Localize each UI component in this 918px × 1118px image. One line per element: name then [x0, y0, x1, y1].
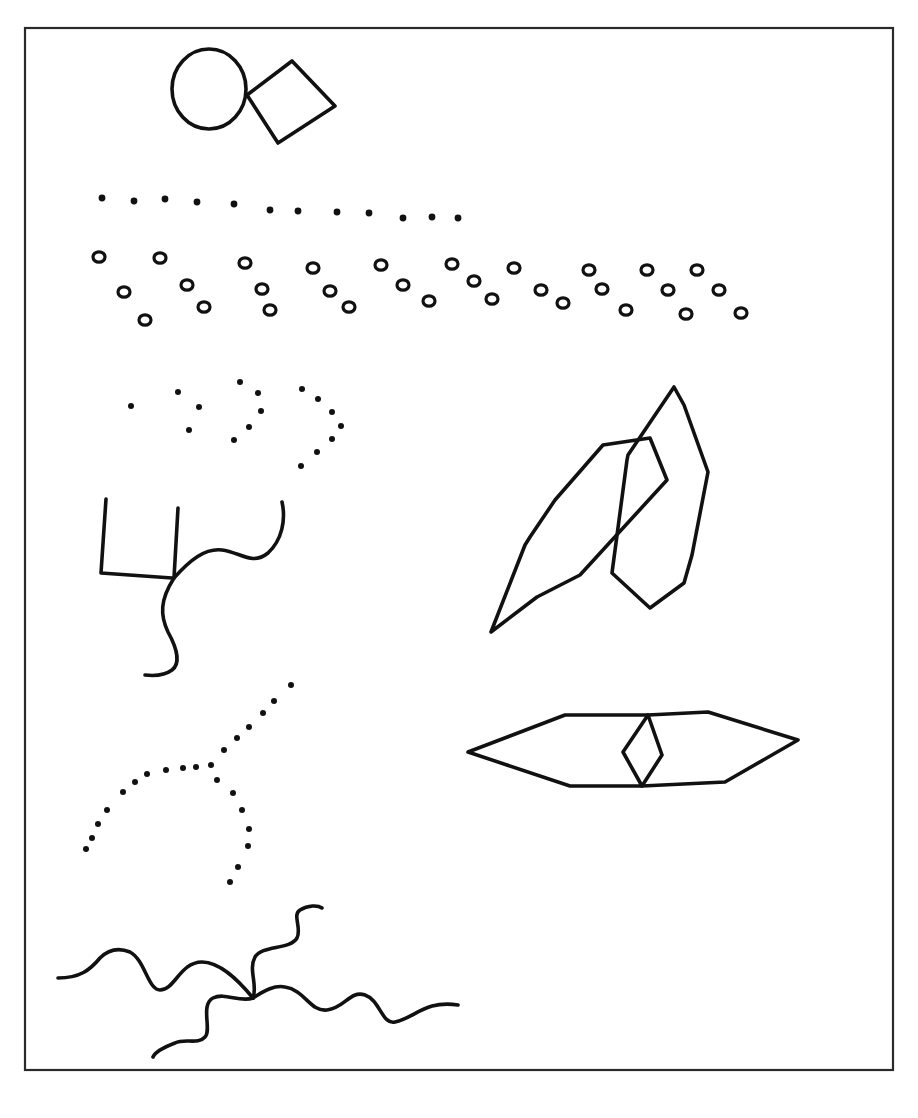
dot	[329, 409, 335, 415]
dot	[258, 408, 264, 414]
ring	[423, 296, 435, 306]
ring	[397, 280, 409, 290]
dot	[400, 215, 407, 222]
ring	[239, 258, 251, 268]
dot	[230, 790, 236, 796]
dot	[299, 386, 305, 392]
dot	[334, 209, 341, 216]
ring	[93, 252, 105, 262]
dot-curve-group	[83, 682, 294, 885]
dot	[255, 390, 261, 396]
lens-inner-diamond	[623, 715, 662, 786]
ring	[583, 265, 595, 275]
dot	[163, 767, 169, 773]
squiggles-group	[58, 906, 458, 1057]
branch-down-curve	[145, 578, 177, 675]
dot-row-group	[99, 195, 462, 222]
overlapping-polygons	[491, 387, 708, 632]
dot	[95, 821, 101, 827]
dot	[99, 195, 106, 202]
branch-left-bar	[101, 499, 172, 578]
lens-figure	[468, 712, 798, 786]
dot	[246, 424, 252, 430]
dot	[246, 724, 252, 730]
dot	[245, 843, 251, 849]
dot	[246, 826, 252, 832]
dot	[366, 210, 373, 217]
squiggle-line	[253, 987, 458, 1023]
dot	[227, 879, 233, 885]
dot	[295, 208, 302, 215]
dot	[314, 449, 320, 455]
figure-canvas	[0, 0, 918, 1118]
dot	[131, 198, 138, 205]
ring	[680, 309, 692, 319]
branch-right-curve	[174, 502, 283, 578]
ring	[620, 305, 632, 315]
dot	[196, 404, 202, 410]
dot	[239, 807, 245, 813]
dot	[271, 698, 277, 704]
lens-outer	[468, 712, 798, 786]
ring	[468, 276, 480, 286]
circle-diamond-group	[172, 49, 335, 143]
dot	[298, 463, 304, 469]
ring	[713, 285, 725, 295]
ring	[324, 286, 336, 296]
dot	[104, 807, 110, 813]
dot	[231, 437, 237, 443]
dot	[144, 771, 150, 777]
ring	[662, 285, 674, 295]
ring	[256, 284, 268, 294]
ring	[154, 253, 166, 263]
dot	[180, 765, 186, 771]
dot	[231, 201, 238, 208]
dot	[234, 735, 240, 741]
ring	[375, 260, 387, 270]
ring	[535, 285, 547, 295]
dot	[128, 403, 134, 409]
ring	[198, 302, 210, 312]
dot	[186, 427, 192, 433]
dot	[162, 196, 169, 203]
ring	[264, 305, 276, 315]
diamond-shape	[247, 61, 335, 143]
dot	[260, 710, 266, 716]
ring	[139, 315, 151, 325]
dot	[338, 423, 344, 429]
ring	[557, 298, 569, 308]
ring	[596, 284, 608, 294]
branch-figure	[101, 499, 283, 675]
ring	[508, 263, 520, 273]
dot	[288, 682, 294, 688]
dot	[267, 207, 274, 214]
dot	[89, 835, 95, 841]
dot	[175, 389, 181, 395]
polygon-a	[491, 438, 667, 632]
ring	[691, 265, 703, 275]
ring	[343, 302, 355, 312]
ring	[307, 263, 319, 273]
ring	[118, 287, 130, 297]
dot	[193, 764, 199, 770]
ring-rows-group	[93, 252, 747, 325]
dot	[315, 396, 321, 402]
dot	[83, 846, 89, 852]
figure-frame	[25, 28, 893, 1070]
polygon-b	[612, 387, 708, 608]
dot	[237, 379, 243, 385]
dot	[221, 747, 227, 753]
circle-shape	[172, 49, 246, 129]
dot	[194, 199, 201, 206]
branch-mid-bar	[174, 508, 178, 578]
dot	[455, 215, 462, 222]
ring	[735, 308, 747, 318]
ring	[641, 265, 653, 275]
squiggle-line	[58, 950, 253, 998]
dot	[235, 864, 241, 870]
dot	[120, 789, 126, 795]
dot	[208, 762, 214, 768]
dot	[214, 777, 220, 783]
squiggle-line	[252, 906, 322, 998]
dot	[329, 436, 335, 442]
